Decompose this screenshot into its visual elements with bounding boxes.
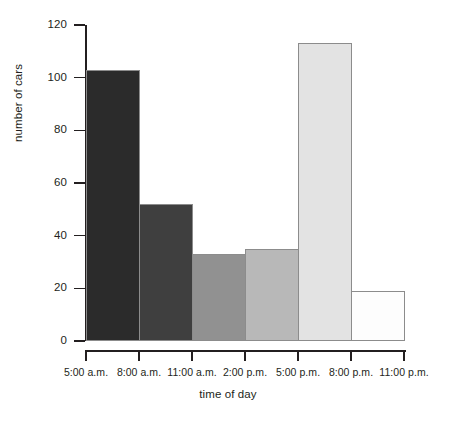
- x-axis-tick: [244, 350, 246, 361]
- y-axis-tick-label: 0: [7, 335, 67, 347]
- x-axis-tick: [138, 350, 140, 361]
- y-axis-tick: [74, 130, 85, 132]
- y-axis-tick-label: 100: [7, 72, 67, 84]
- bar: [139, 204, 193, 341]
- x-axis-title: time of day: [0, 388, 456, 400]
- x-axis-tick-label: 11:00 p.m.: [359, 366, 449, 378]
- y-axis-tick-label: 60: [7, 177, 67, 189]
- bar: [298, 43, 352, 341]
- y-axis-tick: [74, 24, 85, 26]
- x-axis-tick: [403, 350, 405, 361]
- x-axis-line: [86, 350, 406, 352]
- y-axis-tick-label: 80: [7, 124, 67, 136]
- y-axis-tick: [74, 77, 85, 79]
- y-axis-tick-label: 120: [7, 19, 67, 31]
- y-axis-tick-label: 40: [7, 230, 67, 242]
- bar: [351, 291, 405, 341]
- bar-series: [86, 25, 404, 341]
- y-axis-tick: [74, 182, 85, 184]
- x-axis-tick: [297, 350, 299, 361]
- bar: [192, 254, 246, 341]
- y-axis-tick: [74, 235, 85, 237]
- plot-area: [86, 25, 404, 341]
- y-axis-tick: [74, 340, 85, 342]
- bar: [245, 249, 299, 341]
- y-axis-tick: [74, 288, 85, 290]
- x-axis-tick: [191, 350, 193, 361]
- bar-chart: number of cars 120100806040200 5:00 a.m.…: [0, 0, 456, 421]
- bar: [86, 70, 140, 341]
- y-axis-tick-label: 20: [7, 282, 67, 294]
- x-axis-tick: [85, 350, 87, 361]
- x-axis-tick: [350, 350, 352, 361]
